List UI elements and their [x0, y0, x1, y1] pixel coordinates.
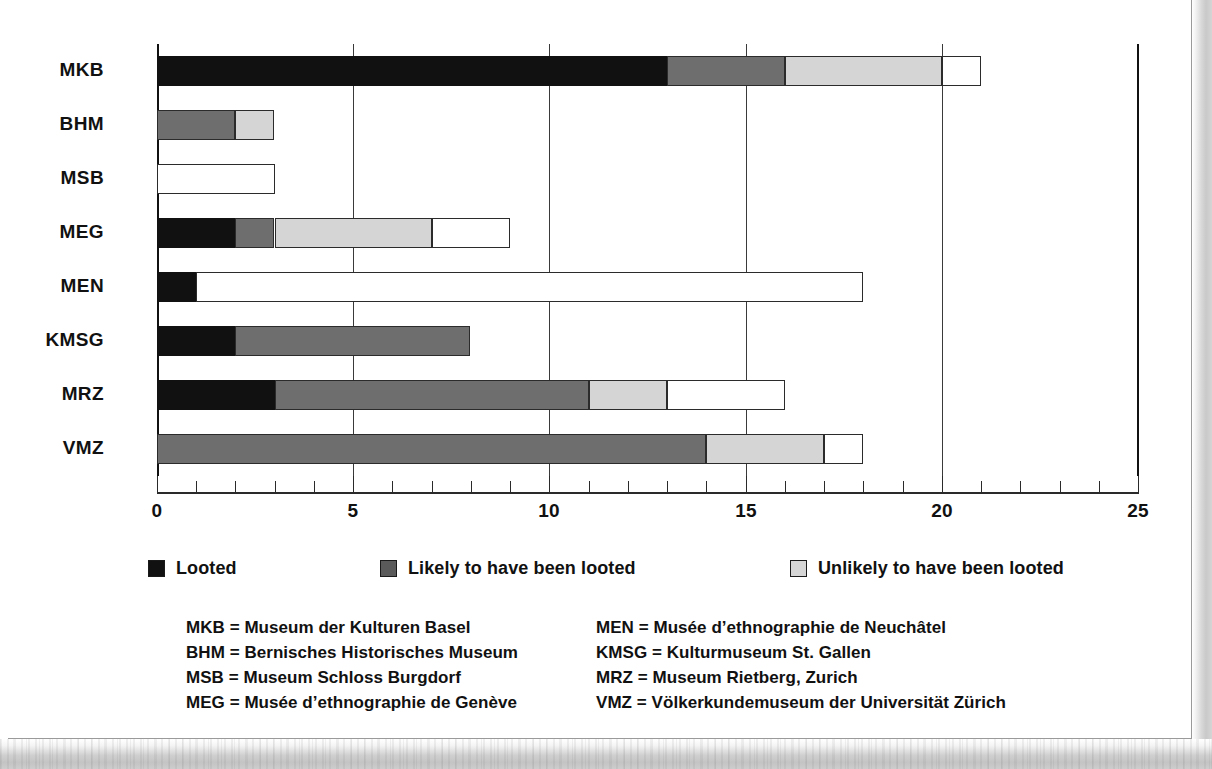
bar-segment-kmsg-looted	[157, 326, 235, 356]
scan-noise-band	[0, 739, 1212, 769]
bar-msb	[0, 164, 1192, 194]
x-tick-major-0	[157, 476, 158, 494]
bar-segment-vmz-not-looted	[824, 434, 863, 464]
y-axis-line	[157, 44, 159, 476]
bar-segment-kmsg-likely-to-have-been-looted	[235, 326, 470, 356]
x-tick-label-25: 25	[1127, 500, 1149, 522]
legend-swatch-icon	[380, 560, 397, 577]
bar-vmz	[0, 434, 1192, 464]
bar-segment-mrz-looted	[157, 380, 275, 410]
gridline-10	[549, 44, 550, 476]
x-tick-minor-9	[510, 481, 511, 493]
x-tick-minor-17	[824, 481, 825, 493]
gridline-15	[746, 44, 747, 476]
bar-segment-mkb-likely-to-have-been-looted	[667, 56, 785, 86]
bar-segment-mkb-looted	[157, 56, 667, 86]
x-tick-minor-19	[903, 481, 904, 493]
x-tick-label-5: 5	[348, 500, 359, 522]
legend-swatch-icon	[790, 560, 807, 577]
x-tick-minor-22	[1020, 481, 1021, 493]
gridline-5	[353, 44, 354, 476]
bar-men	[0, 272, 1192, 302]
bar-segment-mkb-unlikely-to-have-been-looted	[785, 56, 942, 86]
x-tick-major-25	[1138, 476, 1139, 494]
key-line: BHM = Bernisches Historisches Museum	[186, 640, 596, 665]
x-tick-label-20: 20	[931, 500, 953, 522]
x-tick-minor-16	[785, 481, 786, 493]
abbreviation-key: MKB = Museum der Kulturen BaselMEN = Mus…	[186, 615, 1146, 715]
x-tick-minor-14	[706, 481, 707, 493]
bar-segment-bhm-likely-to-have-been-looted	[157, 110, 235, 140]
bar-mrz	[0, 380, 1192, 410]
stacked-bar-chart: MKBBHMMSBMEGMENKMSGMRZVMZ 0510152025 Loo…	[0, 0, 1192, 739]
key-line: MSB = Museum Schloss Burgdorf	[186, 665, 596, 690]
bar-segment-meg-not-looted	[432, 218, 510, 248]
x-tick-minor-8	[471, 481, 472, 493]
legend-item-likely-to-have-been-looted: Likely to have been looted	[380, 558, 636, 579]
x-tick-minor-3	[275, 481, 276, 493]
bar-mkb	[0, 56, 1192, 86]
legend-item-looted: Looted	[148, 558, 237, 579]
bar-segment-mrz-likely-to-have-been-looted	[275, 380, 589, 410]
bar-segment-vmz-likely-to-have-been-looted	[157, 434, 706, 464]
x-tick-major-15	[746, 476, 747, 494]
legend-label: Likely to have been looted	[408, 558, 636, 579]
key-line: VMZ = Völkerkundemuseum der Universität …	[596, 690, 1146, 715]
x-tick-minor-1	[196, 481, 197, 493]
x-tick-label-0: 0	[152, 500, 163, 522]
scan-edge-right	[1192, 0, 1212, 769]
x-tick-minor-21	[981, 481, 982, 493]
x-tick-minor-24	[1099, 481, 1100, 493]
legend-label: Unlikely to have been looted	[818, 558, 1064, 579]
bar-segment-mrz-not-looted	[667, 380, 785, 410]
plot-right-border	[1137, 44, 1139, 476]
bar-segment-bhm-unlikely-to-have-been-looted	[235, 110, 274, 140]
scanned-page: MKBBHMMSBMEGMENKMSGMRZVMZ 0510152025 Loo…	[0, 0, 1212, 769]
x-tick-label-10: 10	[538, 500, 560, 522]
bar-segment-vmz-unlikely-to-have-been-looted	[706, 434, 824, 464]
x-tick-minor-12	[628, 481, 629, 493]
legend-item-unlikely-to-have-been-looted: Unlikely to have been looted	[790, 558, 1064, 579]
bar-segment-men-not-looted	[196, 272, 863, 302]
x-tick-minor-23	[1060, 481, 1061, 493]
bar-kmsg	[0, 326, 1192, 356]
bar-segment-meg-likely-to-have-been-looted	[235, 218, 274, 248]
x-tick-major-10	[549, 476, 550, 494]
bar-segment-men-looted	[157, 272, 196, 302]
x-tick-minor-13	[667, 481, 668, 493]
key-line: MRZ = Museum Rietberg, Zurich	[596, 665, 1146, 690]
x-tick-label-15: 15	[735, 500, 757, 522]
legend-label: Looted	[176, 558, 237, 579]
bar-meg	[0, 218, 1192, 248]
x-axis-line	[157, 492, 1139, 494]
x-tick-minor-6	[392, 481, 393, 493]
x-tick-major-5	[353, 476, 354, 494]
x-tick-minor-18	[863, 481, 864, 493]
key-line: MKB = Museum der Kulturen Basel	[186, 615, 596, 640]
x-tick-minor-4	[314, 481, 315, 493]
bar-segment-mkb-not-looted	[942, 56, 981, 86]
key-line: MEG = Musée d’ethnographie de Genève	[186, 690, 596, 715]
bar-bhm	[0, 110, 1192, 140]
x-tick-minor-7	[432, 481, 433, 493]
gridline-20	[942, 44, 943, 476]
x-tick-minor-11	[589, 481, 590, 493]
key-line: KMSG = Kulturmuseum St. Gallen	[596, 640, 1146, 665]
bar-segment-meg-unlikely-to-have-been-looted	[275, 218, 432, 248]
x-tick-minor-2	[235, 481, 236, 493]
legend-swatch-icon	[148, 560, 165, 577]
bar-segment-meg-looted	[157, 218, 235, 248]
bar-segment-msb-not-looted	[157, 164, 275, 194]
x-tick-major-20	[942, 476, 943, 494]
key-line: MEN = Musée d’ethnographie de Neuchâtel	[596, 615, 1146, 640]
bar-segment-mrz-unlikely-to-have-been-looted	[589, 380, 667, 410]
